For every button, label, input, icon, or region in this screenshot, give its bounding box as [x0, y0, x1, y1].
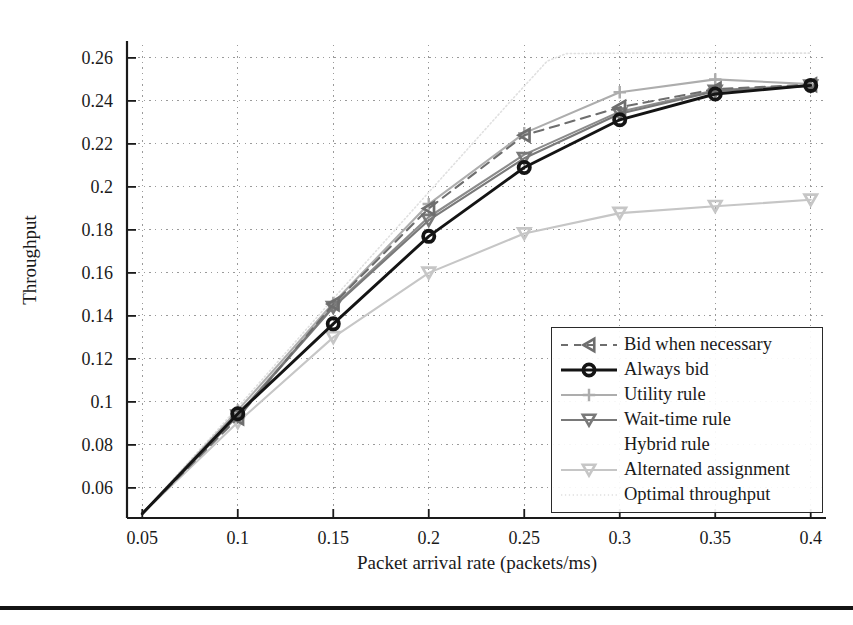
legend-item-bid-when-necessary[interactable]: Bid when necessary	[558, 332, 816, 357]
legend-item-alternated-assignment[interactable]: Alternated assignment	[558, 457, 816, 482]
legend-swatch-icon	[558, 359, 620, 381]
legend-item-optimal-throughput[interactable]: Optimal throughput	[558, 482, 816, 507]
y-tick-label: 0.26	[82, 48, 114, 68]
y-tick-label: 0.1	[91, 392, 114, 412]
y-tick-label: 0.12	[82, 349, 114, 369]
legend-swatch-icon	[558, 459, 620, 481]
legend-label: Bid when necessary	[620, 334, 772, 355]
legend-swatch-icon	[558, 384, 620, 406]
x-tick-label: 0.15	[318, 528, 350, 548]
legend-label: Wait-time rule	[620, 409, 731, 430]
legend-label: Alternated assignment	[620, 459, 790, 480]
data-point-marker	[583, 388, 595, 400]
legend-label: Utility rule	[620, 384, 706, 405]
chart-legend[interactable]: Bid when necessaryAlways bidUtility rule…	[551, 327, 823, 513]
legend-swatch-icon	[558, 409, 620, 431]
y-tick-label: 0.08	[82, 435, 114, 455]
x-tick-label: 0.2	[418, 528, 441, 548]
legend-item-utility-rule[interactable]: Utility rule	[558, 382, 816, 407]
data-point-marker	[614, 86, 626, 98]
legend-label: Optimal throughput	[620, 484, 770, 505]
y-tick-label: 0.16	[82, 263, 114, 283]
legend-item-hybrid-rule[interactable]: Hybrid rule	[558, 432, 816, 457]
x-axis-label: Packet arrival rate (packets/ms)	[127, 552, 827, 574]
y-tick-label: 0.06	[82, 478, 114, 498]
legend-swatch-icon	[558, 484, 620, 506]
y-tick-label: 0.2	[91, 177, 114, 197]
x-tick-label: 0.1	[227, 528, 250, 548]
y-tick-label: 0.18	[82, 220, 114, 240]
legend-label: Always bid	[620, 359, 709, 380]
legend-swatch-icon	[558, 434, 620, 456]
figure-container: Throughput 0.060.080.10.120.140.160.180.…	[0, 0, 853, 625]
legend-item-always-bid[interactable]: Always bid	[558, 357, 816, 382]
legend-swatch-icon	[558, 334, 620, 356]
bottom-divider-rule	[0, 606, 853, 610]
x-tick-label: 0.25	[508, 528, 540, 548]
x-tick-label: 0.4	[799, 528, 822, 548]
legend-item-wait-time-rule[interactable]: Wait-time rule	[558, 407, 816, 432]
x-tick-label: 0.35	[699, 528, 731, 548]
x-tick-label: 0.05	[127, 528, 159, 548]
y-tick-label: 0.24	[82, 91, 114, 111]
x-tick-label: 0.3	[608, 528, 631, 548]
legend-label: Hybrid rule	[620, 434, 710, 455]
y-tick-label: 0.14	[82, 306, 114, 326]
y-tick-label: 0.22	[82, 134, 114, 154]
